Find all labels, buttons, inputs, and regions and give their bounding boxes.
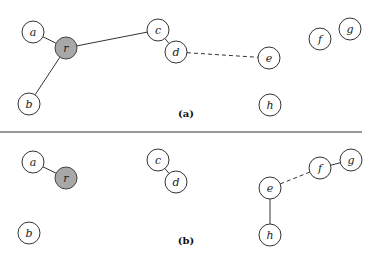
node-label: c [155, 154, 161, 167]
edge-a-r [43, 37, 56, 43]
edge-r-b [35, 57, 60, 95]
node-label: e [267, 182, 274, 195]
node-label: b [25, 227, 32, 240]
node-label: e [266, 52, 273, 65]
node-d: d [165, 41, 187, 63]
node-label: a [30, 156, 37, 169]
node-label: d [172, 176, 179, 189]
node-label: c [155, 24, 161, 37]
edges-layer [35, 32, 340, 224]
node-c: c [147, 19, 169, 41]
edge-a-r [43, 167, 56, 173]
node-f: f [309, 28, 331, 50]
node-label: g [347, 154, 354, 167]
node-label: h [266, 99, 273, 112]
node-a: a [22, 21, 44, 43]
panel-label-a: (a) [178, 108, 194, 119]
node-f: f [309, 157, 331, 179]
edge-c-d [165, 169, 169, 174]
edge-r-c [77, 32, 147, 46]
node-label: r [63, 172, 69, 185]
node-a: a [22, 151, 44, 173]
node-r: r [55, 167, 77, 189]
edge-c-d [165, 39, 169, 44]
node-b: b [18, 222, 40, 244]
edge-f-g [331, 163, 341, 166]
node-label: a [30, 26, 37, 39]
node-h: h [259, 94, 281, 116]
panel-label-b: (b) [178, 235, 194, 246]
node-r: r [55, 37, 77, 59]
node-g: g [340, 149, 362, 171]
node-e: e [258, 47, 280, 69]
node-label: d [172, 46, 179, 59]
node-label: r [63, 42, 69, 55]
edge-e-f [280, 172, 310, 184]
node-label: b [25, 98, 32, 111]
node-g: g [339, 18, 361, 40]
graph-diagram: arbcdefgharbcdefgh (a)(b) [0, 0, 381, 261]
node-d: d [165, 171, 187, 193]
node-h: h [259, 224, 281, 246]
edge-d-e [187, 53, 258, 58]
node-e: e [259, 177, 281, 199]
node-label: g [346, 23, 353, 36]
node-label: h [266, 229, 273, 242]
node-c: c [147, 149, 169, 171]
node-b: b [18, 93, 40, 115]
